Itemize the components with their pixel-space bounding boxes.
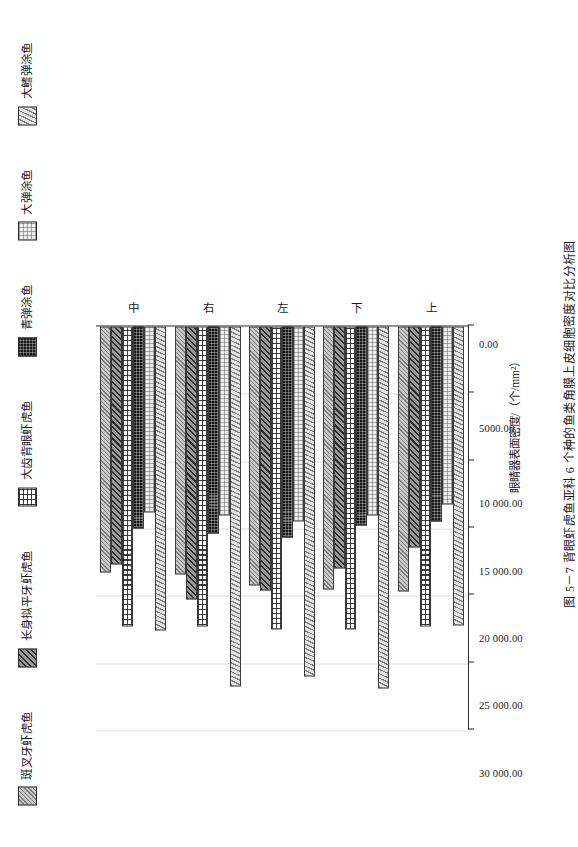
axis-tick-label: 0.00 <box>479 338 498 349</box>
axis-tick <box>468 391 474 392</box>
legend-item: 长身拟平牙虾虎鱼 <box>18 550 37 667</box>
bar <box>111 326 122 564</box>
bar <box>356 326 367 525</box>
category-label: 右 <box>198 298 218 314</box>
legend-item: 斑叉牙虾虎鱼 <box>18 711 37 805</box>
bar <box>442 326 453 504</box>
legend-label: 青弹涂鱼 <box>22 284 34 330</box>
category-label: 中 <box>123 298 143 314</box>
bar <box>122 326 133 626</box>
legend-label: 大鳍弹涂鱼 <box>22 42 34 99</box>
bar <box>271 326 282 629</box>
bar <box>378 326 389 688</box>
legend-swatch-icon <box>18 106 37 125</box>
bar <box>230 326 241 686</box>
bar <box>175 326 186 574</box>
value-axis: 0.005000.0010 000.0015 000.0020 000.0025… <box>468 324 469 729</box>
bar <box>208 326 219 533</box>
bar <box>431 326 442 521</box>
bar <box>420 326 431 626</box>
axis-tick <box>468 728 474 729</box>
bar <box>282 326 293 537</box>
axis-tick <box>468 661 474 662</box>
legend-swatch-icon <box>18 786 37 805</box>
bar <box>249 326 260 585</box>
legend-label: 斑叉牙虾虎鱼 <box>22 711 34 779</box>
legend-swatch-icon <box>18 648 37 667</box>
bar <box>409 326 420 547</box>
bar <box>260 326 271 590</box>
bar <box>144 326 155 512</box>
bar <box>100 326 111 572</box>
legend-item: 青弹涂鱼 <box>18 284 37 356</box>
category-label: 下 <box>346 298 366 314</box>
bar <box>367 326 378 515</box>
legend-item: 大鳍弹涂鱼 <box>18 42 37 125</box>
bar <box>323 326 334 589</box>
axis-tick <box>468 526 474 527</box>
axis-tick <box>468 593 474 594</box>
axis-tick <box>468 459 474 460</box>
category-label: 上 <box>421 298 441 314</box>
bar <box>219 326 230 515</box>
legend-label: 大齿背眼虾虎鱼 <box>22 400 34 480</box>
bar-group <box>245 326 319 729</box>
legend-item: 大齿背眼虾虎鱼 <box>18 400 37 506</box>
legend-label: 长身拟平牙虾虎鱼 <box>22 550 34 641</box>
legend-swatch-icon <box>18 337 37 356</box>
value-axis-title: 眼睛器表面密度/（个/mm²） <box>506 0 522 847</box>
legend-swatch-icon <box>18 487 37 506</box>
bar <box>453 326 464 625</box>
legend-label: 大弹涂鱼 <box>22 169 34 215</box>
bar <box>293 326 304 521</box>
category-label: 左 <box>272 298 292 314</box>
axis-tick <box>468 324 474 325</box>
bar <box>155 326 166 630</box>
value-axis-title-text: 眼睛器表面密度/（个/mm²） <box>506 355 522 493</box>
legend-swatch-icon <box>18 221 37 240</box>
bar <box>398 326 409 591</box>
bar <box>304 326 315 676</box>
bar <box>345 326 356 629</box>
bar-group <box>170 326 244 729</box>
plot-area <box>96 325 468 729</box>
bar <box>197 326 208 626</box>
bar <box>133 326 144 528</box>
bar <box>334 326 345 568</box>
figure-caption: 图 5－7 背眼虾虎鱼亚科 6 个种的鱼类角膜上皮细胞密度对比分析图 <box>560 0 578 847</box>
chart-legend: 斑叉牙虾虎鱼长身拟平牙虾虎鱼大齿背眼虾虎鱼青弹涂鱼大弹涂鱼大鳍弹涂鱼 <box>18 0 80 847</box>
bar-group <box>319 326 393 729</box>
legend-item: 大弹涂鱼 <box>18 169 37 241</box>
bar-group <box>394 326 468 729</box>
bar <box>186 326 197 599</box>
gridline <box>96 730 468 731</box>
bar-group <box>96 326 170 729</box>
